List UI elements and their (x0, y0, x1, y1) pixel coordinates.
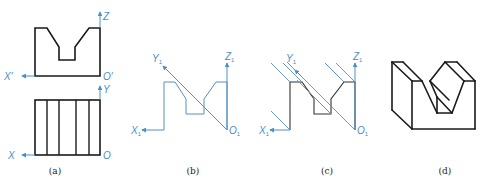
block-edge (403, 62, 422, 81)
projection-lines (271, 62, 355, 130)
axis-label-y1: Y1 (286, 53, 297, 65)
axis-y1-arrow (163, 66, 227, 130)
block-edge (392, 110, 412, 129)
block-edge (452, 81, 464, 113)
v-block-pictorial (392, 62, 475, 129)
top-view (35, 100, 100, 155)
axes-b: Z1X1Y1O1 (130, 51, 241, 137)
projection-line (325, 63, 344, 82)
panel-c: Z1X1Y1O1 (c) (258, 51, 369, 176)
projection-line (283, 63, 302, 82)
axes-c: Z1X1Y1O1 (258, 51, 369, 137)
caption-c: (c) (321, 166, 333, 176)
block-edge (445, 62, 464, 81)
front-view-outline (164, 82, 227, 130)
axis-label-o1: O1 (357, 125, 369, 137)
caption-d: (d) (439, 166, 452, 176)
axis-label-z1: Z1 (352, 51, 363, 63)
panel-b: Z1X1Y1O1 (b) (130, 51, 241, 176)
panel-a: ZX′O′YXO (a) (3, 11, 114, 176)
axis-label-z1: Z1 (224, 51, 235, 63)
axis-label-x1: X1 (130, 125, 142, 137)
axis-label-y1: Y1 (152, 53, 163, 65)
axis-label-x-prime: X′ (3, 71, 14, 82)
axis-label-o-prime: O′ (103, 71, 114, 82)
top-view-outline (35, 100, 100, 155)
diagram-canvas: ZX′O′YXO (a) Z1X1Y1O1 (b) Z1X1Y1O1 (c) (… (0, 0, 490, 188)
caption-b: (b) (187, 166, 200, 176)
block-edge (430, 62, 445, 81)
axis-label-y: Y (103, 84, 111, 95)
block-edge (457, 62, 475, 81)
block-edge (392, 62, 412, 81)
block-edge (430, 81, 449, 100)
axis-label-o1: O1 (229, 125, 241, 137)
axis-label-x1: X1 (258, 125, 270, 137)
projection-line (271, 111, 290, 130)
axis-label-o: O (103, 150, 111, 161)
projection-line (271, 63, 290, 82)
projection-line (336, 63, 355, 82)
panel-d: (d) (392, 62, 475, 176)
axis-label-x: X (7, 150, 15, 161)
front-view-outline (35, 28, 100, 76)
axis-y1-arrow (295, 70, 301, 76)
axis-label-z: Z (102, 11, 110, 22)
projection-line (314, 97, 331, 114)
caption-a: (a) (49, 166, 61, 176)
block-edge (437, 97, 452, 113)
